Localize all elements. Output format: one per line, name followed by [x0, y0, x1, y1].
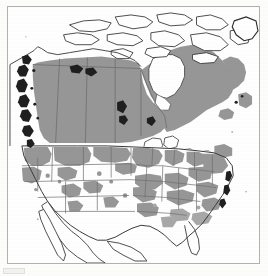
north-america-map [8, 7, 259, 263]
map-frame [7, 6, 260, 264]
legend-swatch [3, 268, 25, 274]
legend [3, 267, 27, 274]
distribution-map-figure [0, 0, 268, 276]
